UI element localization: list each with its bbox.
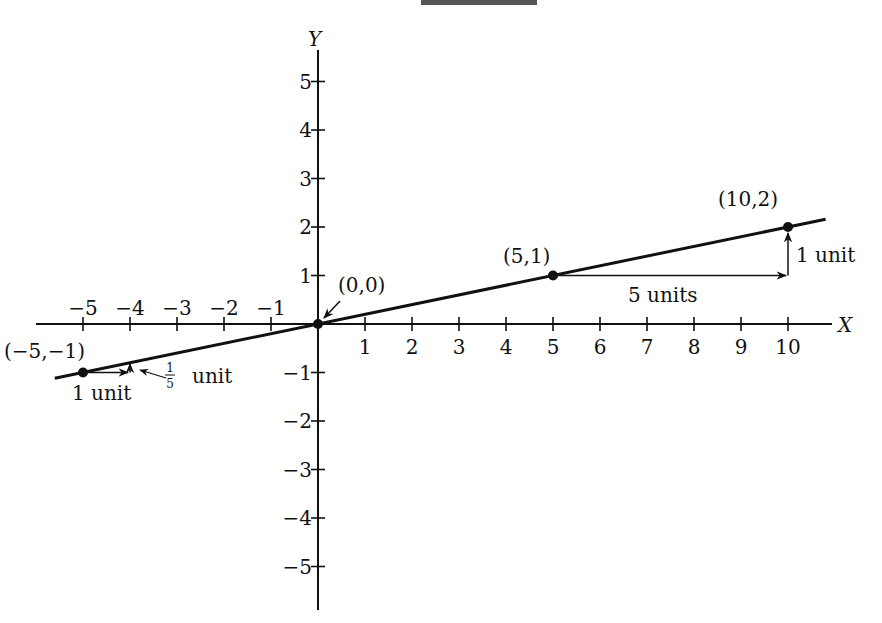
point-label: (10,2) [718, 187, 778, 211]
y-tick-label: 5 [299, 70, 312, 94]
x-tick-label: 3 [453, 335, 466, 359]
x-tick-label: 6 [594, 335, 607, 359]
axes: XY [36, 27, 853, 610]
point [783, 222, 793, 232]
y-tick-label: −3 [283, 458, 312, 482]
y-tick-label: 4 [299, 118, 312, 142]
x-tick-label: 8 [688, 335, 701, 359]
y-tick-label: 1 [299, 264, 312, 288]
rise-label-small: unit [192, 364, 232, 388]
point-label: (5,1) [503, 244, 550, 268]
x-tick-label: −4 [115, 296, 144, 320]
point-label: (−5,−1) [4, 339, 85, 363]
coordinate-plane-figure: XY −5−4−3−2−11234567891054321−1−2−3−4−5 … [0, 0, 882, 623]
run-label-small: 1 unit [72, 381, 131, 405]
x-tick-label: −2 [209, 296, 238, 320]
y-tick-label: −4 [283, 506, 312, 530]
x-tick-label: 10 [775, 335, 800, 359]
x-tick-label: 4 [500, 335, 513, 359]
x-axis-label: X [836, 313, 853, 337]
x-tick-label: 2 [406, 335, 419, 359]
point-label: (0,0) [338, 273, 385, 297]
top-rule [421, 0, 537, 5]
y-tick-label: −2 [283, 409, 312, 433]
point [78, 368, 88, 378]
y-tick-label: −1 [283, 361, 312, 385]
x-tick-label: −1 [256, 296, 285, 320]
fraction-numerator: 1 [166, 361, 174, 375]
x-tick-label: −3 [162, 296, 191, 320]
y-axis-label: Y [308, 27, 323, 51]
y-tick-label: 3 [299, 167, 312, 191]
run-label-large: 5 units [628, 283, 698, 307]
point [313, 319, 323, 329]
rise-label-large: 1 unit [796, 243, 855, 267]
y-tick-label: 2 [299, 215, 312, 239]
x-tick-label: 1 [359, 335, 372, 359]
y-tick-label: −5 [283, 555, 312, 579]
point [548, 271, 558, 281]
x-tick-label: −5 [68, 296, 97, 320]
x-tick-label: 5 [547, 335, 560, 359]
x-tick-label: 9 [735, 335, 748, 359]
plot-svg: XY −5−4−3−2−11234567891054321−1−2−3−4−5 … [0, 0, 882, 623]
x-tick-label: 7 [641, 335, 654, 359]
fraction-denominator: 5 [166, 377, 174, 391]
